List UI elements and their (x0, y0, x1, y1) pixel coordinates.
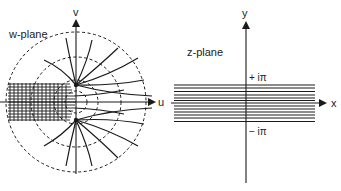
w-plane-panel: w-plane v u (0, 6, 164, 174)
z-plane-title: z-plane (187, 46, 223, 58)
u-axis-label: u (158, 96, 164, 108)
v-axis-arrowhead-icon (72, 19, 80, 27)
x-axis-label: x (331, 97, 337, 109)
y-axis-arrowhead-icon (242, 21, 250, 29)
v-axis-label: v (73, 6, 79, 18)
w-plane-title: w-plane (8, 28, 48, 40)
z-plane-panel: z-plane y x + iπ − iπ (171, 7, 337, 183)
upper-bound-label: + iπ (249, 72, 267, 83)
u-axis-arrowhead-icon (148, 98, 156, 106)
lower-bound-label: − iπ (249, 126, 267, 137)
w-axes (0, 26, 150, 174)
x-axis-arrowhead-icon (319, 99, 327, 107)
conformal-map-diagram: w-plane v u z-plane y x + (0, 0, 341, 191)
y-axis-label: y (242, 7, 248, 19)
